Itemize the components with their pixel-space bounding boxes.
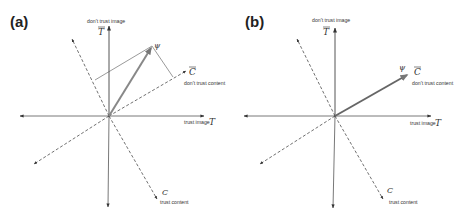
axis-c-negative-dashed [297,39,335,116]
axis-down [333,116,335,208]
projection-on-c-bar [152,46,173,77]
axis-c-dashed [109,116,157,199]
c-caption: trust content [389,199,418,205]
t-bar-caption: don't trust image [87,18,125,24]
axis-c-dashed [335,116,383,199]
c-symbol: C [162,188,168,197]
panel-a: (a) ψ don't trust image T C don't trust … [10,13,226,207]
axis-c-bar-negative-dashed [34,116,109,164]
axis-c-bar-dashed [109,71,186,116]
psi-label: ψ [154,41,161,50]
t-bar-symbol: T [323,27,330,37]
t-bar-caption: don't trust image [312,17,350,23]
panel-b-label: (b) [245,13,264,30]
t-symbol: T [209,117,216,127]
c-symbol: C [387,186,393,195]
axis-down [108,116,109,207]
state-vector-psi [109,48,151,116]
psi-label: ψ [399,63,406,72]
t-bar-symbol: T [98,27,105,37]
quantum-trust-diagram: (a) ψ don't trust image T C don't trust … [0,0,475,221]
t-caption: trust image [184,119,210,125]
axis-c-negative-dashed [72,39,109,116]
c-bar-caption: don't trust content [184,80,226,86]
t-caption: trust image [410,120,436,126]
c-bar-symbol: C [414,67,421,77]
c-caption: trust content [160,199,189,205]
c-bar-caption: don't trust content [412,80,454,86]
panel-b: (b) ψ don't trust image T C don't trust … [244,13,454,208]
projection-on-c [95,46,152,80]
c-bar-symbol: C [189,67,196,77]
panel-a-label: (a) [10,13,28,30]
t-symbol: T [435,118,442,128]
axis-c-bar-negative-dashed [260,116,335,164]
state-vector-psi [335,75,407,116]
